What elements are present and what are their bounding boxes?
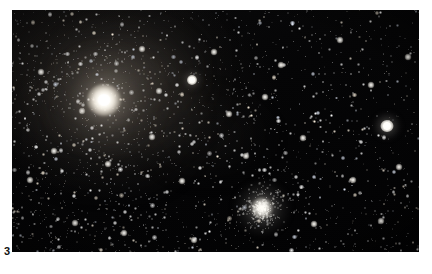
sky-background [12, 10, 419, 252]
astrophotograph-plate [12, 10, 419, 252]
figure-page: 3 [0, 0, 432, 274]
figure-number-label: 3 [4, 246, 10, 257]
